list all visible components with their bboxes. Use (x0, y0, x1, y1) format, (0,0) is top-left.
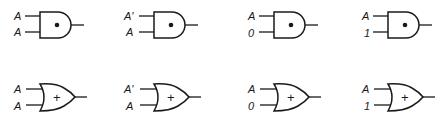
or-gate-1: A A + (13, 83, 87, 112)
input-label-bottom: A (125, 26, 133, 38)
or-gate-2: A' A + (123, 83, 201, 112)
input-label-bottom: 1 (364, 27, 370, 39)
input-label-top: A' (123, 10, 134, 22)
and-dot-icon (403, 23, 408, 28)
input-label-top: A (247, 83, 255, 95)
input-label-bottom: 0 (248, 27, 255, 39)
input-label-top: A (361, 83, 369, 95)
input-label-top: A (13, 10, 21, 22)
and-dot-icon (55, 23, 60, 28)
and-gate-2: A' A (123, 10, 198, 38)
or-gate-4: A 1 + (361, 83, 435, 112)
and-dot-icon (289, 23, 294, 28)
input-label-top: A' (123, 83, 134, 95)
input-label-top: A (361, 10, 369, 22)
and-gate-4: A 1 (361, 10, 432, 39)
input-label-bottom: A (13, 100, 21, 112)
logic-gates-diagram: A A A' A A 0 A 1 A A (0, 0, 448, 132)
and-dot-icon (169, 23, 174, 28)
input-label-top: A (13, 83, 21, 95)
or-plus-icon: + (287, 90, 295, 105)
or-plus-icon: + (53, 90, 61, 105)
input-label-bottom: A (13, 26, 21, 38)
input-label-bottom: 1 (364, 100, 370, 112)
input-label-top: A (247, 10, 255, 22)
input-label-bottom: A (125, 100, 133, 112)
and-gate-1: A A (13, 10, 84, 38)
or-gate-3: A 0 + (247, 83, 321, 112)
and-gate-3: A 0 (247, 10, 318, 39)
or-plus-icon: + (401, 90, 409, 105)
input-label-bottom: 0 (248, 100, 255, 112)
or-plus-icon: + (167, 90, 175, 105)
